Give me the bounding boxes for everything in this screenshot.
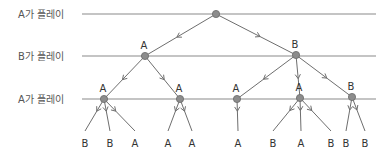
decision-node	[233, 95, 240, 102]
leaf-outcome: B	[107, 138, 114, 149]
leaf-outcome: B	[270, 138, 277, 149]
leaf-outcome: B	[82, 138, 89, 149]
leaf-outcome: B	[343, 138, 350, 149]
row-label: B가 플레이	[18, 51, 64, 62]
tree-edge	[104, 56, 145, 99]
leaf-edge	[85, 99, 104, 131]
node-player-label: A	[100, 83, 107, 94]
leaf-outcomes: BBAAAABABBB	[82, 138, 369, 149]
decision-node	[141, 52, 148, 59]
leaf-outcome: A	[165, 138, 172, 149]
node-player-label: A	[141, 40, 148, 51]
decision-node	[292, 51, 299, 58]
leaf-edge	[273, 98, 300, 131]
decision-node	[296, 94, 303, 101]
leaf-outcome: B	[328, 138, 335, 149]
leaf-edge	[180, 99, 192, 131]
node-player-label: A	[176, 83, 183, 94]
leaf-outcome: A	[235, 138, 242, 149]
leaf-outcome: A	[298, 138, 305, 149]
tree-edges	[85, 14, 365, 131]
decision-node	[100, 95, 107, 102]
decision-node	[348, 93, 355, 100]
tree-edge	[237, 55, 296, 99]
tree-edge	[145, 14, 216, 56]
leaf-outcome: A	[132, 138, 139, 149]
decision-node	[176, 95, 183, 102]
leaf-edge	[352, 97, 365, 131]
row-label: A가 플레이	[18, 94, 64, 105]
leaf-edge	[346, 97, 352, 131]
leaf-edge	[237, 99, 238, 131]
tree-edge	[296, 55, 352, 97]
leaf-edge	[300, 98, 301, 131]
leaf-edge	[300, 98, 331, 131]
node-player-label: A	[296, 82, 303, 93]
game-tree-diagram: A가 플레이B가 플레이A가 플레이 ABAAAAB BBAAAABABBB	[0, 0, 386, 159]
node-player-label: B	[292, 39, 299, 50]
node-player-label: B	[348, 81, 355, 92]
leaf-edge	[168, 99, 180, 131]
decision-node	[212, 10, 219, 17]
row-label: A가 플레이	[18, 9, 64, 20]
tree-edge	[216, 14, 296, 55]
node-player-label: A	[233, 83, 240, 94]
leaf-outcome: A	[189, 138, 196, 149]
row-lines: A가 플레이B가 플레이A가 플레이	[18, 9, 376, 105]
leaf-outcome: B	[362, 138, 369, 149]
